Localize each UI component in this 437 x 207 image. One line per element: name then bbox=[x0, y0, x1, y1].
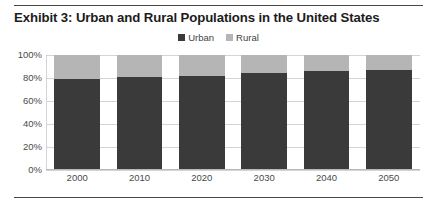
x-axis: 200020102020203020402050 bbox=[46, 173, 420, 189]
bar-segment-rural[interactable] bbox=[117, 55, 163, 77]
legend-item-rural: Rural bbox=[226, 33, 259, 43]
bar-group[interactable] bbox=[304, 55, 350, 170]
bar-segment-rural[interactable] bbox=[366, 55, 412, 70]
bar-segment-rural[interactable] bbox=[241, 55, 287, 73]
bar-segment-rural[interactable] bbox=[54, 55, 100, 79]
y-axis-tick-label: 80% bbox=[2, 73, 42, 83]
y-gridline bbox=[46, 170, 420, 171]
legend-label-urban: Urban bbox=[188, 33, 214, 43]
bar-segment-urban[interactable] bbox=[179, 76, 225, 170]
x-axis-tick-label: 2020 bbox=[171, 173, 233, 183]
bar-segment-rural[interactable] bbox=[304, 55, 350, 71]
bar-segment-urban[interactable] bbox=[304, 71, 350, 170]
bar-group[interactable] bbox=[117, 55, 163, 170]
y-axis: 0%20%40%60%80%100% bbox=[0, 55, 42, 170]
x-axis-tick-label: 2040 bbox=[295, 173, 357, 183]
bar-segment-urban[interactable] bbox=[366, 70, 412, 170]
bar-series-container bbox=[46, 55, 420, 170]
square-marker-icon bbox=[226, 34, 233, 41]
bar-segment-rural[interactable] bbox=[179, 55, 225, 76]
bar-group[interactable] bbox=[179, 55, 225, 170]
x-axis-tick-label: 2030 bbox=[233, 173, 295, 183]
bar-group[interactable] bbox=[54, 55, 100, 170]
y-axis-tick-label: 100% bbox=[2, 50, 42, 60]
square-marker-icon bbox=[178, 34, 185, 41]
bar-segment-urban[interactable] bbox=[54, 79, 100, 170]
bottom-divider-rule bbox=[14, 197, 423, 198]
plot-area bbox=[46, 55, 420, 170]
legend-label-rural: Rural bbox=[236, 33, 259, 43]
y-axis-tick-label: 20% bbox=[2, 142, 42, 152]
bar-group[interactable] bbox=[366, 55, 412, 170]
x-axis-tick-label: 2000 bbox=[46, 173, 108, 183]
y-axis-tick-label: 40% bbox=[2, 119, 42, 129]
legend-item-urban: Urban bbox=[178, 33, 214, 43]
page-title: Exhibit 3: Urban and Rural Populations i… bbox=[14, 10, 424, 25]
y-axis-tick-label: 60% bbox=[2, 96, 42, 106]
bar-segment-urban[interactable] bbox=[241, 73, 287, 170]
bar-segment-urban[interactable] bbox=[117, 77, 163, 170]
bar-group[interactable] bbox=[241, 55, 287, 170]
top-divider-rule bbox=[14, 5, 423, 6]
x-axis-line bbox=[46, 169, 420, 170]
chart-legend: Urban Rural bbox=[0, 33, 437, 43]
x-axis-tick-label: 2010 bbox=[108, 173, 170, 183]
exhibit-figure: Exhibit 3: Urban and Rural Populations i… bbox=[0, 0, 437, 207]
y-axis-tick-label: 0% bbox=[2, 165, 42, 175]
x-axis-tick-label: 2050 bbox=[358, 173, 420, 183]
